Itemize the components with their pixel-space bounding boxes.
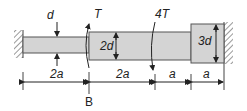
shaft-segment-d bbox=[23, 37, 89, 53]
dimension-label-1: 2a bbox=[49, 67, 64, 81]
label-torque-T: T bbox=[94, 7, 103, 21]
label-torque-4T: 4T bbox=[155, 7, 171, 21]
dimension-label-4: a bbox=[203, 67, 210, 81]
left-fixed-wall bbox=[14, 30, 23, 58]
label-2d: 2d bbox=[99, 39, 114, 53]
dimension-extension-lines bbox=[23, 72, 191, 94]
dimension-label-2: 2a bbox=[115, 67, 130, 81]
dimension-label-3: a bbox=[169, 67, 176, 81]
label-3d: 3d bbox=[198, 34, 212, 48]
label-point-B: B bbox=[85, 95, 93, 109]
label-d: d bbox=[47, 8, 54, 22]
right-fixed-wall bbox=[224, 22, 233, 90]
shaft-diagram: d 2d 3d T 4T 2a 2a a a bbox=[0, 0, 247, 111]
